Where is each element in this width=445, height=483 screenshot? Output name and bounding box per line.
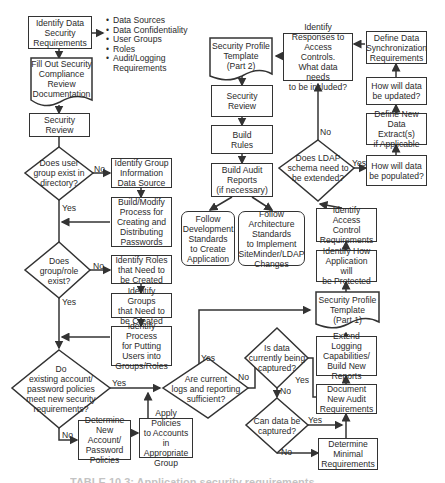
follow-development-standards: Follow Development Standards to Create A… (181, 211, 235, 266)
how-data-populated: How will data be populated? (366, 155, 427, 186)
figure-caption: TABLE 10.3: Application security require… (70, 475, 380, 483)
decision-existing-policies: Do existing account/ password policies m… (22, 364, 100, 414)
label-no: No (62, 430, 73, 440)
security-review-1: Security Review (29, 113, 90, 137)
label-yes: Yes (352, 158, 366, 168)
identify-group-info-source: Identify Group Information Data Source (111, 158, 172, 188)
label-no: No (281, 447, 292, 457)
build-modify-password-process: Build/Modify Process for Creating and Di… (111, 197, 172, 247)
build-audit-reports: Build Audit Reports (if necessary) (211, 163, 273, 197)
build-rules: Build Rules (211, 125, 273, 154)
label-yes: Yes (112, 378, 126, 388)
label-yes: Yes (308, 415, 322, 425)
label-no: No (238, 372, 249, 382)
identify-roles: Identify Roles that Need to be Created (111, 255, 172, 284)
security-profile-template-part1: Security Profile Template (Part 1) (316, 290, 379, 324)
apply-policies: Apply Policies to Accounts in Appropriat… (139, 418, 193, 458)
fill-out-compliance-doc: Fill Out Security Compliance Review Docu… (31, 56, 92, 100)
decision-group-role-exists: Does group/role exist? (30, 256, 88, 286)
identify-data-security-requirements: Identify Data Security Requirements (28, 16, 92, 49)
document-new-audit-requirements: Document New Audit Requirements (316, 384, 377, 414)
label-no: No (93, 261, 104, 271)
decision-user-group-exists: Does user group exist in directory? (28, 158, 90, 188)
decision-data-captured: Is data currently being captured? (248, 343, 306, 373)
label-yes: Yes (62, 203, 76, 213)
requirement-bullet-list: Data Sources Data Confidentiality User G… (106, 16, 188, 74)
decision-ldap-extend: Does LDAP schema need to be extended? (286, 153, 350, 183)
security-review-2: Security Review (211, 85, 273, 117)
identify-groups: Identify Groups that Need to be Created (111, 293, 172, 318)
label-yes: Yes (62, 297, 76, 307)
label-yes: Yes (295, 375, 309, 385)
follow-architecture-standards: Follow Architecture Standards to Impleme… (238, 211, 305, 266)
decision-can-capture: Can data be captured? (250, 415, 304, 437)
identify-process-putting-users: Identify Process for Putting Users into … (111, 326, 172, 366)
define-new-data-extracts: Define New Data Extract(s) if Applicable (366, 113, 427, 145)
identify-access-control-requirements: Identify Access Control Requirements (316, 208, 377, 242)
bullet-audit-logging: Audit/Logging Requirements (106, 54, 188, 73)
flowchart-canvas: Identify Data Security Requirements Data… (0, 0, 445, 483)
how-data-updated: How will data be updated? (366, 77, 427, 105)
determine-minimal-requirements: Determine Minimal Requirements (318, 438, 378, 470)
label-no: No (320, 127, 331, 137)
identify-how-app-protected: Identify How Application will be Protect… (316, 250, 377, 282)
label-no: No (280, 386, 291, 396)
decision-logs-sufficient: Are current logs and reporting sufficien… (164, 374, 248, 404)
determine-new-account-policies: Determine New Account/ Password Policies (78, 420, 131, 460)
label-no: No (94, 164, 105, 174)
label-yes: Yes (201, 353, 215, 363)
security-profile-template-part2: Security Profile Template (Part 2) (210, 36, 272, 74)
identify-responses-access-controls: Identify Responses to Access Controls. W… (283, 33, 353, 81)
define-data-sync: Define Data Synchronization Requirements (366, 31, 427, 64)
extend-logging: Extend Logging Capabilities/ Build New R… (316, 336, 377, 376)
